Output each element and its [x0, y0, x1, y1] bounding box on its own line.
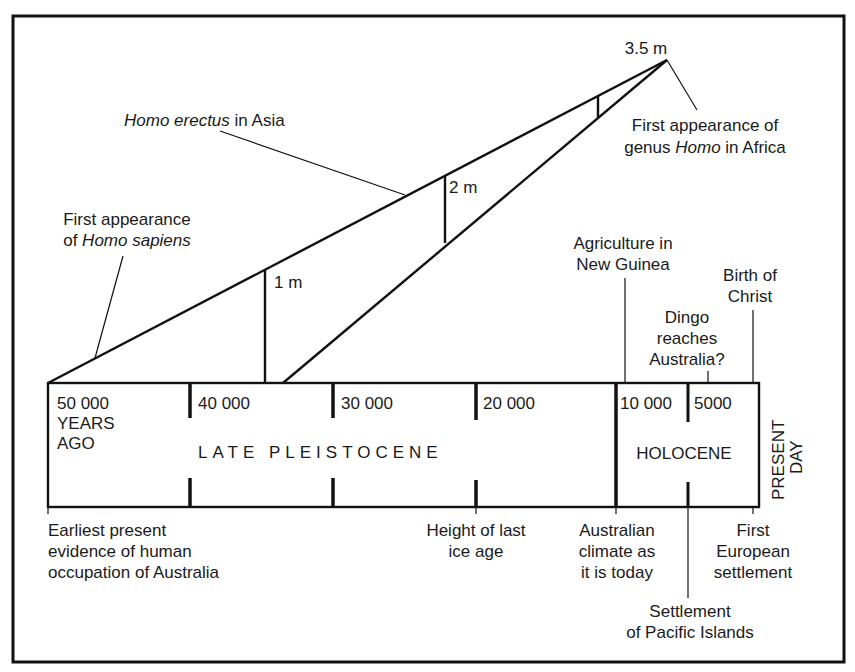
tick-label-20000: 20 000: [483, 394, 535, 413]
tick-label-40000: 40 000: [198, 394, 250, 413]
label-earliest-line3: occupation of Australia: [48, 563, 220, 582]
label-birth-of-christ-line1: Birth of: [723, 266, 777, 285]
tick-label-years: YEARS: [57, 414, 115, 433]
label-european-line2: European: [716, 542, 790, 561]
label-climate-line2: climate as: [579, 542, 656, 561]
label-climate-line1: Australian: [579, 521, 655, 540]
present-day-line2: DAY: [787, 440, 806, 474]
label-ice-age-line2: ice age: [449, 542, 504, 561]
label-earliest-line2: evidence of human: [48, 542, 192, 561]
label-dingo-line3: Australia?: [649, 350, 725, 369]
label-homo-sapiens-line1: First appearance: [63, 210, 191, 229]
label-genus-homo-line2: genus Homo in Africa: [624, 138, 786, 157]
timeline-diagram: 1 m 2 m 3.5 m Homo erectus in Asia First…: [0, 0, 855, 672]
label-european-line1: First: [736, 521, 769, 540]
present-day-line1: PRESENT: [769, 420, 788, 500]
label-homo-sapiens-line2: of Homo sapiens: [63, 231, 191, 250]
label-agriculture-line1: Agriculture in: [573, 234, 672, 253]
scale-label-2m: 2 m: [449, 178, 477, 197]
leader-homo-sapiens: [95, 256, 123, 358]
label-pacific-line2: of Pacific Islands: [626, 623, 754, 642]
label-climate-line3: it is today: [581, 563, 653, 582]
diagram-canvas: 1 m 2 m 3.5 m Homo erectus in Asia First…: [0, 0, 855, 672]
leader-genus-homo: [667, 60, 697, 110]
label-birth-of-christ-line2: Christ: [728, 287, 773, 306]
tick-label-50000: 50 000: [57, 394, 109, 413]
tick-label-ago: AGO: [57, 434, 95, 453]
label-pacific-line1: Settlement: [649, 602, 731, 621]
apex-label: 3.5 m: [625, 39, 668, 58]
tick-label-30000: 30 000: [341, 394, 393, 413]
wedge-lower-line: [283, 60, 667, 383]
era-holocene: HOLOCENE: [636, 444, 731, 463]
label-dingo-line2: reaches: [657, 329, 717, 348]
scale-label-1m: 1 m: [274, 273, 302, 292]
label-ice-age-line1: Height of last: [426, 521, 525, 540]
era-late-pleistocene: LATE PLEISTOCENE: [198, 443, 443, 462]
label-earliest-line1: Earliest present: [48, 521, 166, 540]
label-dingo-line1: Dingo: [665, 308, 709, 327]
tick-label-5000: 5000: [694, 394, 732, 413]
tick-label-10000: 10 000: [620, 394, 672, 413]
label-european-line3: settlement: [714, 563, 793, 582]
upper-leader-lines: [95, 60, 753, 383]
label-homo-erectus: Homo erectus in Asia: [124, 111, 285, 130]
leader-homo-erectus: [220, 131, 405, 195]
label-agriculture-line2: New Guinea: [576, 255, 670, 274]
label-genus-homo-line1: First appearance of: [632, 116, 779, 135]
